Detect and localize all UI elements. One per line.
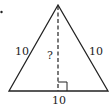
triangle-diagram: 10 10 ? 10 [0,0,112,110]
right-side-label: 10 [89,45,103,58]
bullet-marker [0,11,2,13]
left-side-label: 10 [15,45,29,58]
height-label: ? [47,49,53,62]
right-angle-mark [58,82,67,91]
base-label: 10 [52,94,66,107]
